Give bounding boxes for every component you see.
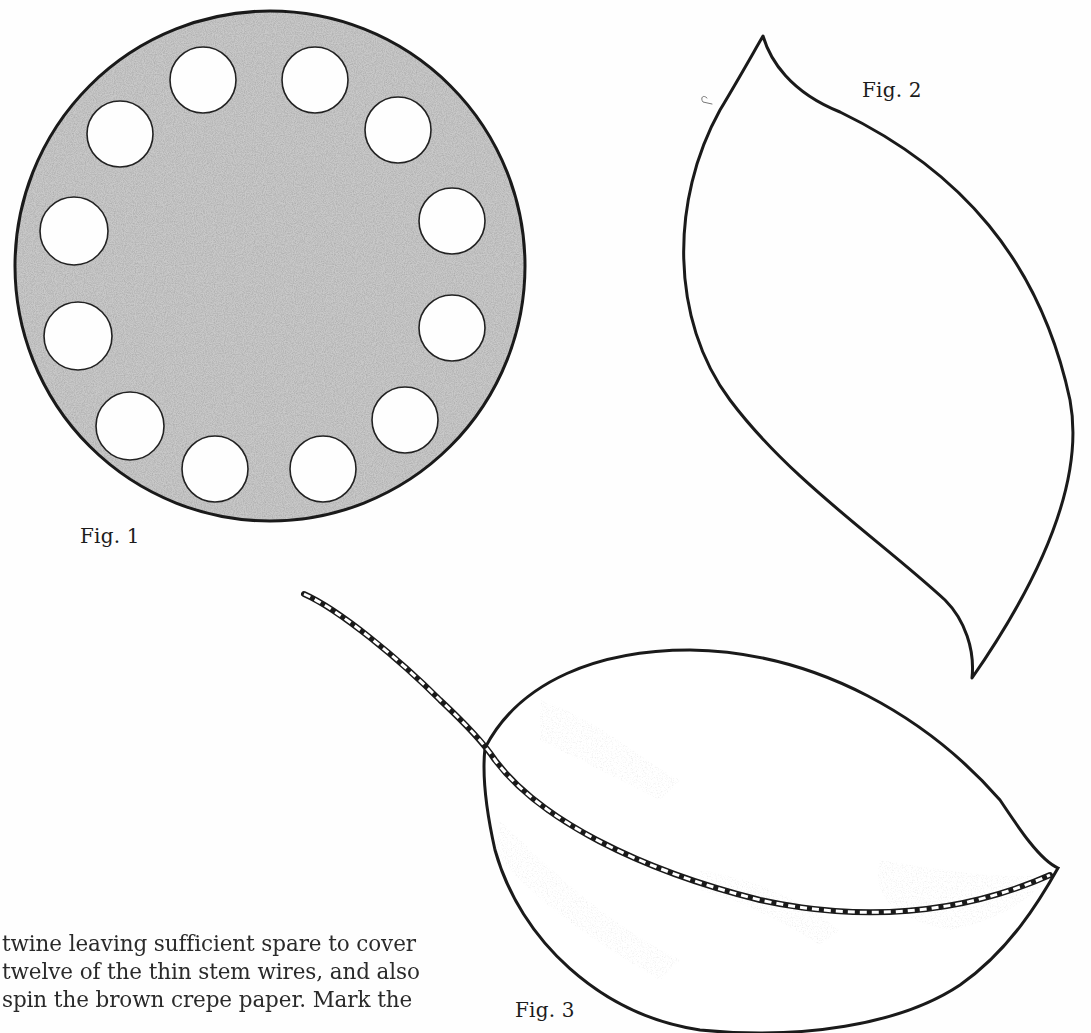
body-line: twelve of the thin stem wires, and also: [2, 958, 522, 986]
body-paragraph: twine leaving sufficient spare to cover …: [2, 930, 522, 1014]
body-line: twine leaving sufficient spare to cover: [2, 930, 522, 958]
fig2-label: Fig. 2: [862, 78, 922, 102]
fig2-leaf-outline: [684, 36, 1073, 678]
book-page: Fig. 1 Fig. 2 Fig. 3 twine leaving suffi…: [0, 0, 1091, 1033]
body-line: spin the brown crepe paper. Mark the: [2, 986, 522, 1014]
fig3-label: Fig. 3: [515, 998, 575, 1022]
illustrations: [0, 0, 1091, 1033]
fig1-label: Fig. 1: [80, 524, 140, 548]
fig1-disc: [10, 8, 530, 528]
